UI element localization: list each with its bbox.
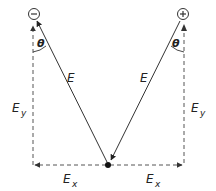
- ey-right-label: E y: [191, 101, 206, 118]
- ex-left-sub: x: [71, 179, 78, 189]
- field-vector-from-positive: [111, 21, 180, 160]
- negative-charge: [29, 9, 40, 20]
- e-right-label: E: [140, 71, 148, 85]
- ey-right-main: E: [191, 101, 199, 115]
- ey-left-label: E y: [12, 101, 27, 118]
- ey-right-arrowhead: [181, 24, 187, 31]
- electric-field-diagram: θ θ E E E y E y E x E x: [0, 0, 216, 191]
- ey-left-sub: y: [20, 108, 27, 118]
- theta-left-label: θ: [37, 37, 45, 50]
- theta-right-label: θ: [172, 37, 180, 50]
- positive-charge: [178, 9, 189, 20]
- ex-left-main: E: [63, 172, 71, 186]
- field-vector-to-negative: [37, 21, 107, 162]
- field-point: [105, 162, 111, 168]
- ex-left-label: E x: [63, 172, 78, 189]
- e-left-label: E: [67, 71, 75, 85]
- ey-right-sub: y: [199, 108, 206, 118]
- ex-right-label: E x: [146, 172, 161, 189]
- ex-right-sub: x: [154, 179, 161, 189]
- ex-right-main: E: [146, 172, 154, 186]
- ey-left-main: E: [12, 101, 20, 115]
